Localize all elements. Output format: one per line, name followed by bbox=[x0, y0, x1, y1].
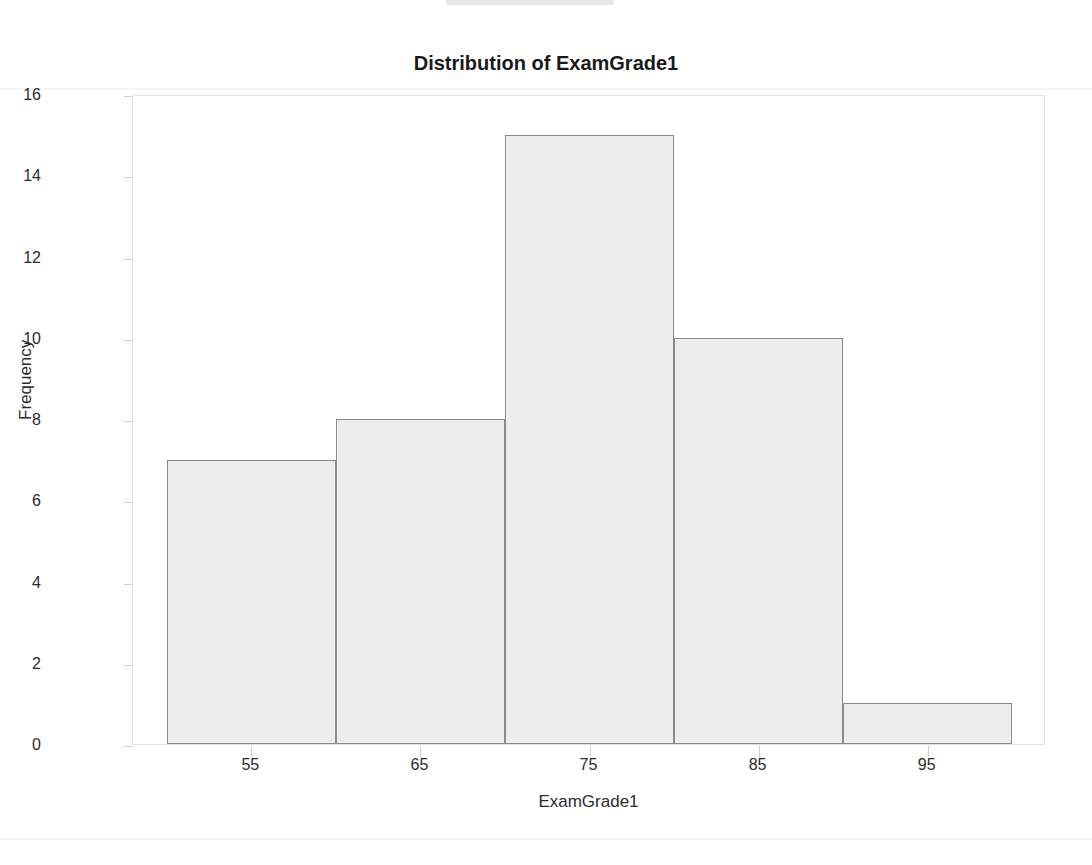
y-axis-tick bbox=[124, 584, 133, 585]
x-axis-title: ExamGrade1 bbox=[132, 792, 1045, 812]
y-axis-tick-label: 4 bbox=[0, 574, 41, 592]
histogram-bar bbox=[336, 419, 505, 744]
x-axis-tick-label: 85 bbox=[723, 756, 793, 774]
y-axis-tick-label: 14 bbox=[0, 167, 41, 185]
x-axis-tick-label: 65 bbox=[384, 756, 454, 774]
y-axis-tick-label: 10 bbox=[0, 330, 41, 348]
y-axis-tick-label: 6 bbox=[0, 492, 41, 510]
histogram-bar bbox=[674, 338, 843, 744]
y-axis-tick bbox=[124, 421, 133, 422]
y-axis-tick bbox=[124, 665, 133, 666]
y-axis-tick bbox=[124, 96, 133, 97]
screenshot-root: Distribution of ExamGrade1 Frequency 024… bbox=[0, 0, 1092, 865]
y-axis-tick bbox=[124, 746, 133, 747]
histogram-bar bbox=[843, 703, 1012, 744]
y-axis-tick bbox=[124, 259, 133, 260]
chart-title: Distribution of ExamGrade1 bbox=[0, 52, 1092, 75]
y-axis-tick bbox=[124, 177, 133, 178]
x-axis-tick-label: 75 bbox=[554, 756, 624, 774]
plot-area bbox=[132, 95, 1045, 745]
y-axis-title: Frequency bbox=[16, 340, 36, 420]
x-axis-tick-label: 55 bbox=[215, 756, 285, 774]
histogram-bar bbox=[505, 135, 674, 744]
histogram-chart: Distribution of ExamGrade1 Frequency 024… bbox=[0, 0, 1092, 865]
y-axis-tick-label: 12 bbox=[0, 249, 41, 267]
histogram-bar bbox=[167, 460, 336, 744]
y-axis-tick-label: 0 bbox=[0, 736, 41, 754]
y-axis-tick bbox=[124, 340, 133, 341]
x-axis-tick-label: 95 bbox=[892, 756, 962, 774]
y-axis-tick-label: 8 bbox=[0, 411, 41, 429]
y-axis-tick bbox=[124, 502, 133, 503]
y-axis-tick-label: 2 bbox=[0, 655, 41, 673]
y-axis-tick-label: 16 bbox=[0, 86, 41, 104]
bars-layer bbox=[133, 96, 1044, 744]
